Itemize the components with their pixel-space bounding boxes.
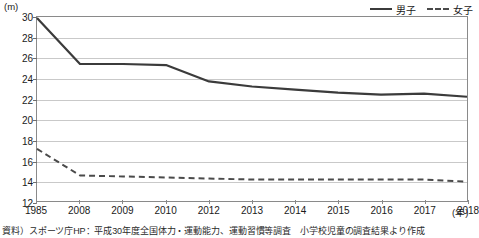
legend-line-dashed-icon bbox=[427, 8, 449, 10]
x-tick-label: 2010 bbox=[154, 205, 176, 216]
x-tick-mark bbox=[36, 200, 37, 204]
x-tick-mark bbox=[295, 200, 296, 204]
x-tick-mark bbox=[382, 200, 383, 204]
y-tick-label: 16 bbox=[22, 156, 33, 167]
y-tick-label: 18 bbox=[22, 136, 33, 147]
x-tick-mark bbox=[122, 200, 123, 204]
y-tick-label: 14 bbox=[22, 177, 33, 188]
x-tick-mark bbox=[468, 200, 469, 204]
chart-legend: 男子 女子 bbox=[370, 2, 473, 16]
y-tick-label: 20 bbox=[22, 115, 33, 126]
source-note: 資料）スポーツ庁HP：平成30年度全国体力・運動能力、運動習慣等調査 小学校児童… bbox=[2, 224, 425, 237]
series-line-boys bbox=[37, 18, 467, 97]
x-tick-label: 2015 bbox=[327, 205, 349, 216]
series-lines bbox=[37, 17, 467, 201]
y-tick-label: 30 bbox=[22, 12, 33, 23]
series-line-girls bbox=[37, 149, 467, 182]
x-tick-mark bbox=[252, 200, 253, 204]
legend-line-solid-icon bbox=[370, 8, 392, 10]
y-tick-label: 26 bbox=[22, 53, 33, 64]
y-axis-unit-label: (m) bbox=[4, 1, 18, 12]
x-tick-mark bbox=[209, 200, 210, 204]
legend-label-boys: 男子 bbox=[396, 2, 416, 17]
x-tick-mark bbox=[425, 200, 426, 204]
plot-area: 12141618202224262830 bbox=[36, 16, 468, 202]
x-tick-mark bbox=[338, 200, 339, 204]
x-tick-label: 2017 bbox=[414, 205, 436, 216]
x-tick-mark bbox=[79, 200, 80, 204]
x-tick-label: 2009 bbox=[111, 205, 133, 216]
x-axis-labels: 1985200820092010201220132014201520162017… bbox=[36, 205, 468, 219]
legend-item-girls[interactable]: 女子 bbox=[427, 2, 473, 17]
x-tick-label: 1985 bbox=[25, 205, 47, 216]
x-tick-label: 2008 bbox=[68, 205, 90, 216]
x-tick-mark bbox=[166, 200, 167, 204]
x-tick-label: 2012 bbox=[198, 205, 220, 216]
x-tick-label: 2016 bbox=[370, 205, 392, 216]
y-tick-label: 28 bbox=[22, 32, 33, 43]
legend-label-girls: 女子 bbox=[453, 2, 473, 17]
y-tick-label: 24 bbox=[22, 74, 33, 85]
y-tick-label: 22 bbox=[22, 94, 33, 105]
x-tick-label: 2014 bbox=[284, 205, 306, 216]
x-axis-unit-label: (年) bbox=[452, 205, 468, 219]
x-tick-label: 2013 bbox=[241, 205, 263, 216]
legend-item-boys[interactable]: 男子 bbox=[370, 2, 416, 17]
